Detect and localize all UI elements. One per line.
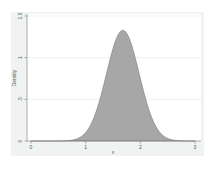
y-tick-label: 1 <box>17 56 23 59</box>
x-tick-label: 3 <box>194 144 197 150</box>
y-axis-title: Density <box>11 69 17 86</box>
x-axis-title: x <box>112 149 115 155</box>
y-tick-label: 0 <box>17 139 23 142</box>
x-tick-label: 0 <box>30 144 33 150</box>
x-tick-label: 2 <box>139 144 142 150</box>
x-tick-label: 1 <box>84 144 87 150</box>
y-ticks: 0.511.5 <box>17 12 27 142</box>
density-chart: 0123 0.511.5 x Density <box>0 0 217 169</box>
y-tick-label: 1.5 <box>17 12 23 19</box>
y-tick-label: .5 <box>17 97 23 101</box>
